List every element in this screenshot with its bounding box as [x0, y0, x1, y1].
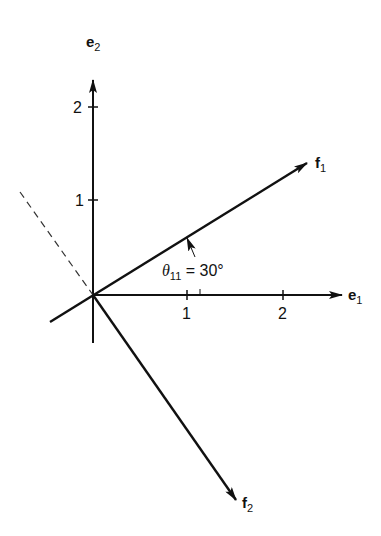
f2-label: f2 — [242, 494, 253, 514]
e2-tick-label-2: 2 — [73, 99, 82, 116]
e1-label: e1 — [348, 286, 362, 306]
f2-vector — [93, 295, 236, 500]
e1-tick-label-1: 1 — [182, 305, 191, 322]
angle-arrow — [187, 238, 195, 257]
f1-vector — [50, 163, 307, 322]
diagram-svg: e2 2 1 e1 1 2 f1 f2 θ11 = 30° — [0, 0, 381, 536]
e1-tick-label-2: 2 — [278, 305, 287, 322]
f1-label: f1 — [315, 154, 326, 174]
e2-tick-label-1: 1 — [75, 192, 84, 209]
angle-label: θ11 = 30° — [162, 262, 224, 282]
basis-rotation-diagram: e2 2 1 e1 1 2 f1 f2 θ11 = 30° — [0, 0, 381, 536]
e2-label: e2 — [86, 33, 100, 53]
